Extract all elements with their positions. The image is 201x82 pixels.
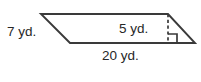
parallelogram-diagram — [0, 0, 201, 82]
height-length-label: 5 yd. — [119, 22, 148, 36]
parallelogram-shape — [41, 14, 195, 43]
geometry-figure: 7 yd. 5 yd. 20 yd. — [0, 0, 201, 82]
left-side-length-label: 7 yd. — [7, 25, 36, 39]
base-length-label: 20 yd. — [102, 49, 139, 63]
